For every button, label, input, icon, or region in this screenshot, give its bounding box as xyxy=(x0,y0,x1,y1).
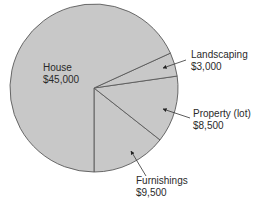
pie-slices xyxy=(10,4,178,172)
landscaping-name: Landscaping xyxy=(191,49,248,61)
house-value: $45,000 xyxy=(43,74,79,86)
furnishings-name: Furnishings xyxy=(136,175,188,187)
landscaping-label: Landscaping $3,000 xyxy=(191,49,248,73)
landscaping-value: $3,000 xyxy=(191,61,248,73)
house-label: House $45,000 xyxy=(43,62,79,86)
property-value: $8,500 xyxy=(193,120,251,132)
property-label: Property (lot) $8,500 xyxy=(193,108,251,132)
pie-chart xyxy=(0,0,263,203)
house-name: House xyxy=(43,62,79,74)
property-name: Property (lot) xyxy=(193,108,251,120)
furnishings-value: $9,500 xyxy=(136,187,188,199)
furnishings-label: Furnishings $9,500 xyxy=(136,175,188,199)
